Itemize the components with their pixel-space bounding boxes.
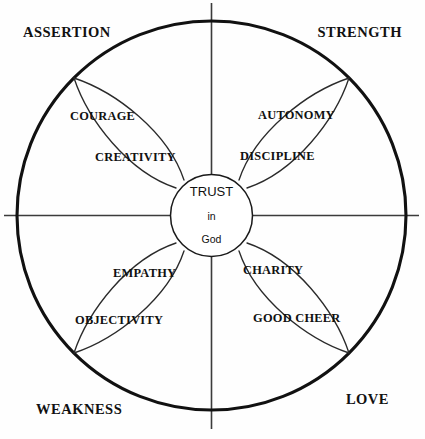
petal-label-discipline: DISCIPLINE xyxy=(240,149,315,163)
petal-label-creativity: CREATIVITY xyxy=(95,150,176,164)
quadrant-label-love: LOVE xyxy=(346,391,389,407)
quadrant-label-weakness: WEAKNESS xyxy=(36,401,122,417)
center-label-trust: TRUST xyxy=(190,184,233,199)
petal-upper-left xyxy=(74,78,184,188)
petal-label-good-cheer: GOOD CHEER xyxy=(253,311,341,325)
petal-label-courage: COURAGE xyxy=(70,109,135,123)
virtue-wheel-svg: ASSERTION STRENGTH WEAKNESS LOVE COURAGE… xyxy=(0,0,425,439)
petal-upper-right xyxy=(239,78,349,188)
petal-label-autonomy: AUTONOMY xyxy=(258,108,335,122)
petal-lower-left xyxy=(74,243,184,353)
petal-label-charity: CHARITY xyxy=(243,263,303,277)
center-label-god: God xyxy=(202,233,222,245)
petal-label-objectivity: OBJECTIVITY xyxy=(75,313,163,327)
center-label-in: in xyxy=(207,210,215,222)
petal-lower-right xyxy=(239,243,349,353)
diagram-canvas: ASSERTION STRENGTH WEAKNESS LOVE COURAGE… xyxy=(0,0,425,439)
quadrant-label-strength: STRENGTH xyxy=(317,24,402,40)
quadrant-label-assertion: ASSERTION xyxy=(23,24,111,40)
petal-label-empathy: EMPATHY xyxy=(113,266,176,280)
